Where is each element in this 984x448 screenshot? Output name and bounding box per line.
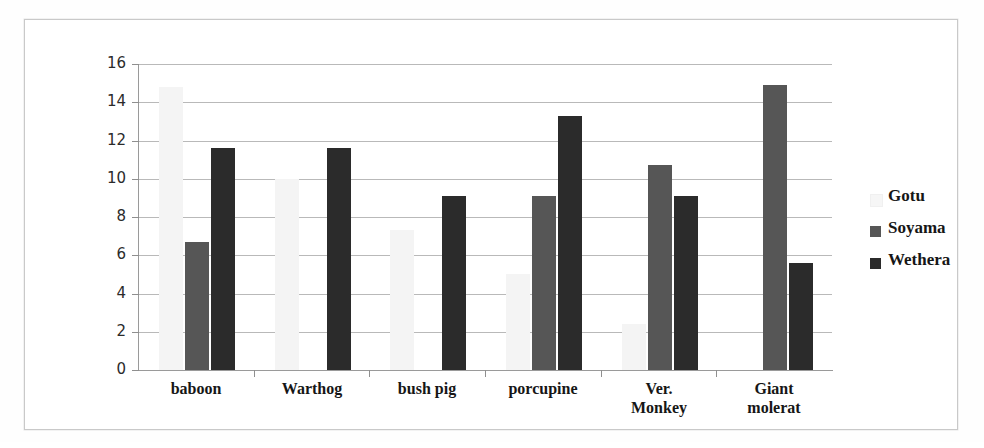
gridline [138,141,832,142]
y-tick-label: 4 [98,286,126,301]
x-axis-label-line: Warthog [254,380,370,399]
gridline [138,64,832,65]
x-axis-label-line: Ver. [601,380,717,399]
y-tick-label: 14 [98,94,126,109]
gridline [138,179,832,180]
y-tick-mark [132,141,139,142]
x-axis-label: bush pig [369,380,485,399]
x-axis-label-line: baboon [138,380,254,399]
chart-frame: 0246810121416 baboonWarthogbush pigporcu… [24,19,958,430]
y-tick-mark [132,64,139,65]
legend-swatch-icon [870,194,883,207]
y-tick-mark [132,179,139,180]
bar-gotu-baboon [159,87,183,370]
bar-wethera-baboon [211,148,235,370]
x-axis-label: Warthog [254,380,370,399]
chart-screenshot: 0246810121416 baboonWarthogbush pigporcu… [0,0,984,448]
bar-soyama-porcupine [532,196,556,370]
x-axis-label: baboon [138,380,254,399]
x-axis-label: porcupine [485,380,601,399]
y-tick-label: 12 [98,133,126,148]
x-axis-label-line: porcupine [485,380,601,399]
y-tick-mark [132,102,139,103]
x-category-separator [485,370,486,377]
gridline [138,332,832,333]
bar-wethera-ver-monkey [674,196,698,370]
bar-gotu-porcupine [506,274,530,370]
y-tick-label: 0 [98,362,126,377]
bar-wethera-giant-molerat [789,263,813,370]
bar-soyama-ver-monkey [648,165,672,370]
y-tick-mark [132,255,139,256]
bar-wethera-warthog [327,148,351,370]
gridline [138,255,832,256]
legend-label: Gotu [888,186,925,206]
scan-edge [0,442,984,448]
legend-swatch-icon [870,226,881,237]
legend-label: Wethera [888,250,950,270]
x-category-separator [254,370,255,377]
bar-soyama-baboon [185,242,209,370]
bar-wethera-porcupine [558,116,582,370]
x-axis-label: Giantmolerat [716,380,832,418]
bar-soyama-giant-molerat [763,85,787,370]
gridline [138,102,832,103]
x-axis-label-line: molerat [716,399,832,418]
x-axis-label-line: bush pig [369,380,485,399]
x-axis-label: Ver.Monkey [601,380,717,418]
gridline [138,217,832,218]
y-tick-label: 2 [98,324,126,339]
x-category-separator [601,370,602,377]
x-axis-label-line: Monkey [601,399,717,418]
x-axis-label-line: Giant [716,380,832,399]
y-tick-label: 8 [98,209,126,224]
y-tick-label: 10 [98,171,126,186]
bar-gotu-bush-pig [390,230,414,370]
y-tick-mark [132,294,139,295]
legend-swatch-icon [870,258,881,269]
y-tick-mark [132,332,139,333]
bar-gotu-ver-monkey [622,324,646,370]
gridline [138,294,832,295]
y-tick-mark [132,217,139,218]
x-category-separator [716,370,717,377]
y-tick-label: 16 [98,56,126,71]
x-category-separator [369,370,370,377]
y-tick-label: 6 [98,247,126,262]
bar-gotu-warthog [275,179,299,370]
legend-label: Soyama [888,218,946,238]
bar-wethera-bush-pig [442,196,466,370]
y-tick-mark [132,370,139,371]
